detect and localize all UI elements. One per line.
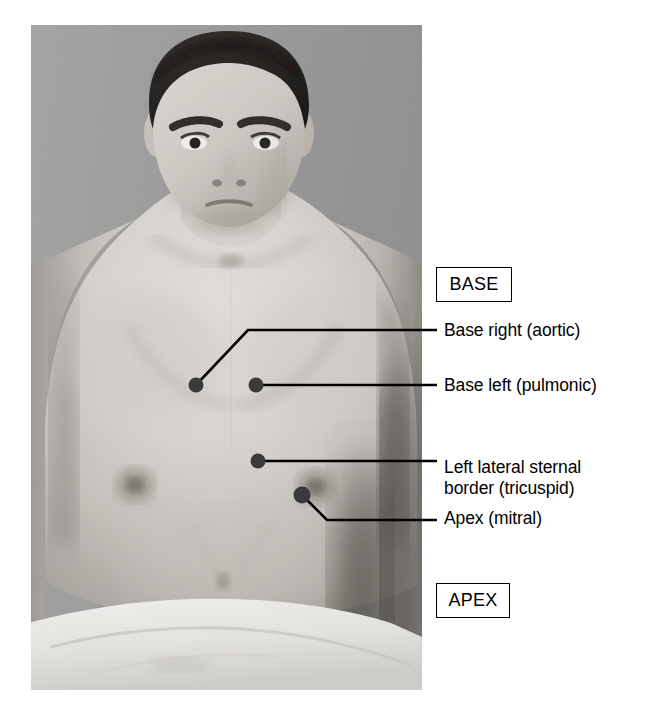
region-box-apex: APEX — [436, 583, 510, 618]
label-base-left-pulmonic: Base left (pulmonic) — [444, 375, 597, 396]
label-base-right-aortic: Base right (aortic) — [444, 320, 580, 341]
label-left-lateral-sternal-border-tricuspid: Left lateral sternal border (tricuspid) — [444, 457, 581, 499]
cardiac-auscultation-figure: Base right (aortic) Base left (pulmonic)… — [0, 0, 649, 717]
photograph-rendering — [31, 25, 422, 690]
chest-photograph — [31, 25, 422, 690]
region-box-base: BASE — [436, 267, 512, 302]
label-apex-mitral: Apex (mitral) — [444, 508, 542, 529]
